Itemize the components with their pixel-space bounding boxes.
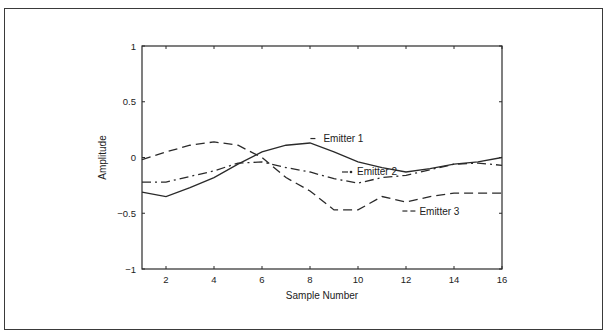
- plot-area-box: [142, 46, 502, 269]
- x-tick-label: 10: [353, 274, 364, 285]
- x-tick-label: 8: [307, 274, 312, 285]
- legend-label: Emitter 2: [357, 166, 397, 177]
- legend: Emitter 1Emitter 2Emitter 3: [310, 133, 459, 216]
- x-tick-label: 6: [259, 274, 264, 285]
- series-lines: [142, 142, 502, 210]
- x-tick-label: 2: [163, 274, 168, 285]
- line-chart: 24681012141610.50−0.5−1 Emitter 1Emitter…: [0, 0, 607, 334]
- x-tick-label: 12: [401, 274, 412, 285]
- x-tick-label: 14: [449, 274, 460, 285]
- axes: 24681012141610.50−0.5−1: [117, 41, 507, 286]
- y-tick-label: 1: [131, 41, 136, 52]
- legend-entry-emitter-2: Emitter 2: [342, 166, 397, 177]
- series-line-emitter-1: [142, 143, 502, 197]
- x-axis-title: Sample Number: [286, 290, 359, 301]
- legend-entry-emitter-3: Emitter 3: [402, 206, 459, 217]
- y-tick-label: −0.5: [117, 208, 136, 219]
- y-tick-label: 0.5: [123, 96, 136, 107]
- y-tick-label: 0: [131, 152, 136, 163]
- x-tick-label: 4: [211, 274, 216, 285]
- x-tick-label: 16: [497, 274, 508, 285]
- legend-label: Emitter 3: [419, 206, 459, 217]
- y-axis-title: Amplitude: [97, 135, 108, 180]
- series-line-emitter-2: [142, 162, 502, 183]
- legend-sample-dot: [350, 171, 353, 174]
- legend-label: Emitter 1: [323, 133, 363, 144]
- legend-entry-emitter-1: Emitter 1: [310, 133, 363, 144]
- y-tick-label: −1: [125, 264, 136, 275]
